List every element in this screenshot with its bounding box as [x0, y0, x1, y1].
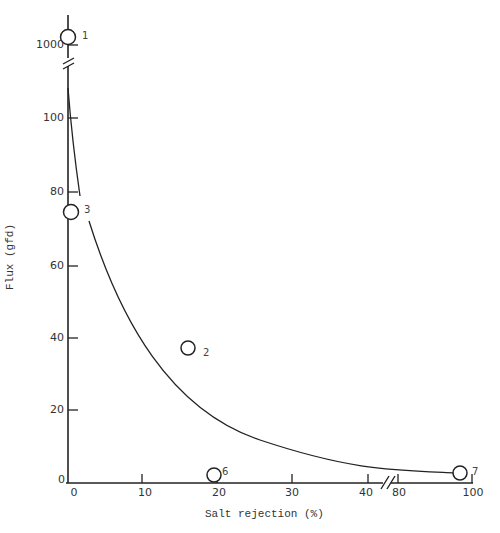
trend-curve-upper	[68, 88, 80, 196]
data-point-2	[181, 341, 195, 355]
y-tick-label-100: 100	[24, 111, 64, 124]
point-label-7: 7	[472, 466, 478, 477]
y-tick-label-0: 0	[25, 473, 65, 486]
x-ticks	[142, 474, 472, 483]
y-tick-label-80: 80	[24, 185, 64, 198]
x-axis-title: Salt rejection (%)	[205, 508, 324, 520]
point-label-3: 3	[84, 204, 90, 215]
x-tick-label-20: 20	[204, 486, 234, 499]
x-tick-label-40: 40	[351, 486, 381, 499]
x-tick-label-0: 0	[59, 486, 89, 499]
point-label-2: 2	[203, 347, 209, 358]
y-tick-label-40: 40	[24, 331, 64, 344]
data-point-3	[64, 205, 79, 220]
data-point-7	[453, 466, 467, 480]
x-tick-label-80: 80	[384, 486, 414, 499]
x-tick-label-100: 100	[458, 486, 488, 499]
y-tick-label-1000: 1000	[24, 38, 64, 51]
y-tick-label-60: 60	[24, 259, 64, 272]
data-point-6	[207, 468, 221, 482]
trend-curve-lower	[89, 221, 455, 473]
point-label-6: 6	[222, 466, 228, 477]
y-tick-label-20: 20	[24, 403, 64, 416]
chart-canvas	[0, 0, 500, 533]
x-tick-label-10: 10	[130, 486, 160, 499]
y-axis-title: Flux (gfd)	[4, 224, 16, 290]
point-label-1: 1	[82, 30, 88, 41]
x-tick-label-30: 30	[277, 486, 307, 499]
